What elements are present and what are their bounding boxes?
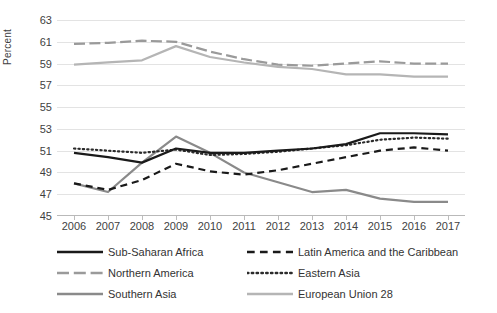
legend-line-swatch-icon: [247, 288, 293, 300]
series-line: [74, 133, 448, 162]
y-axis-ticks: 63615957555351494745: [22, 0, 52, 230]
legend-line-swatch-icon: [247, 267, 293, 279]
legend-line-swatch-icon: [247, 246, 293, 258]
legend-label: European Union 28: [298, 288, 393, 300]
legend-label: Sub-Saharan Africa: [108, 246, 203, 258]
legend-line-swatch-icon: [57, 267, 103, 279]
series-line: [74, 137, 448, 202]
legend-line-swatch-icon: [57, 246, 103, 258]
line-chart: Percent 63615957555351494745 20062007200…: [0, 0, 497, 313]
y-axis-tick-label: 61: [26, 37, 52, 47]
plot-area: [57, 20, 465, 216]
legend-item[interactable]: Eastern Asia: [247, 267, 360, 279]
legend-line-swatch-icon: [57, 288, 103, 300]
legend-item[interactable]: Sub-Saharan Africa: [57, 246, 203, 258]
legend-label: Eastern Asia: [298, 267, 360, 279]
legend-item[interactable]: Southern Asia: [57, 288, 177, 300]
legend-item[interactable]: Northern America: [57, 267, 194, 279]
y-axis-tick-label: 63: [26, 15, 52, 25]
y-axis-tick-label: 55: [26, 102, 52, 112]
y-axis-tick-label: 45: [26, 211, 52, 221]
legend-item[interactable]: Latin America and the Caribbean: [247, 246, 458, 258]
y-axis-tick-label: 49: [26, 167, 52, 177]
y-axis-tick-label: 57: [26, 80, 52, 90]
series-line: [74, 147, 448, 189]
x-axis-line: [57, 215, 465, 216]
legend-item[interactable]: European Union 28: [247, 288, 393, 300]
series-lines: [57, 20, 465, 216]
legend-label: Southern Asia: [108, 288, 177, 300]
chart-legend: Sub-Saharan AfricaLatin America and the …: [0, 246, 497, 308]
x-axis-labels: 2006200720082009201020112012201320142015…: [57, 220, 465, 238]
y-axis-title: Percent: [2, 2, 13, 92]
y-axis-tick-label: 47: [26, 189, 52, 199]
y-axis-tick-label: 59: [26, 59, 52, 69]
legend-label: Latin America and the Caribbean: [298, 246, 458, 258]
y-axis-tick-label: 53: [26, 124, 52, 134]
legend-label: Northern America: [108, 267, 194, 279]
y-axis-tick-label: 51: [26, 146, 52, 156]
x-axis-tick-label: 2017: [428, 220, 468, 232]
